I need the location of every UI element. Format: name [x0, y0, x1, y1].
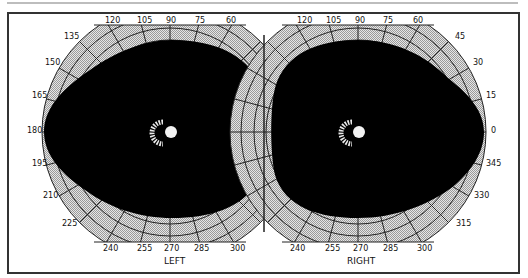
label-75: 75	[383, 16, 393, 25]
label-300: 300	[230, 244, 245, 253]
label-315: 315	[456, 219, 471, 228]
left-eye-label: LEFT	[164, 256, 186, 266]
label-105: 105	[326, 16, 341, 25]
label-180: 180	[27, 126, 42, 135]
label-285: 285	[383, 244, 398, 253]
label-135: 135	[64, 32, 79, 41]
label-240: 240	[103, 244, 118, 253]
label-15: 15	[486, 91, 496, 100]
label-150: 150	[45, 58, 60, 67]
label-330: 330	[474, 191, 489, 200]
label-165: 165	[32, 91, 47, 100]
label-345: 345	[486, 159, 501, 168]
label-210: 210	[43, 191, 58, 200]
right-eye-label: RIGHT	[347, 256, 376, 266]
label-240: 240	[290, 244, 305, 253]
label-0: 0	[491, 126, 496, 135]
label-105: 105	[137, 16, 152, 25]
label-195: 195	[32, 159, 47, 168]
label-75: 75	[195, 16, 205, 25]
label-255: 255	[325, 244, 340, 253]
label-255: 255	[137, 244, 152, 253]
label-225: 225	[62, 219, 77, 228]
label-285: 285	[194, 244, 209, 253]
label-45: 45	[455, 32, 465, 41]
label-270: 270	[353, 244, 368, 253]
label-120: 120	[105, 16, 120, 25]
label-90: 90	[355, 16, 365, 25]
label-90: 90	[166, 16, 176, 25]
label-60: 60	[413, 16, 423, 25]
visual-field-chart: 120 105 90 75 60 135 150 165 180 195 210…	[0, 0, 528, 278]
label-120: 120	[297, 16, 312, 25]
label-30: 30	[473, 58, 483, 67]
label-300: 300	[417, 244, 432, 253]
label-270: 270	[164, 244, 179, 253]
label-60: 60	[226, 16, 236, 25]
